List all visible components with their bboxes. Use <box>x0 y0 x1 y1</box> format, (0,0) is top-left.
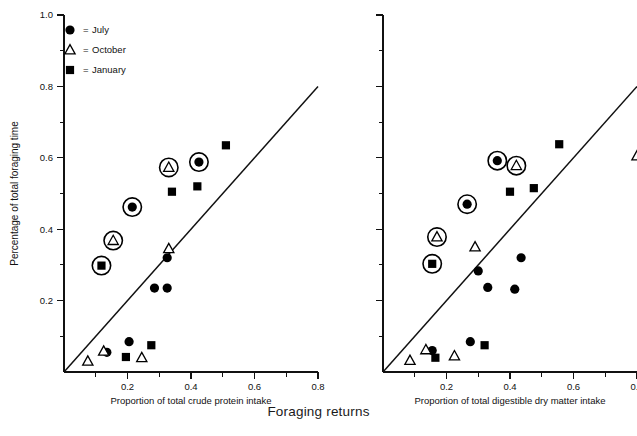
data-point <box>483 283 492 292</box>
reference-line-1to1 <box>64 86 318 372</box>
data-point <box>510 285 519 294</box>
legend: =July=October=January <box>65 24 126 75</box>
data-point <box>168 188 176 196</box>
data-point-circle <box>483 283 492 292</box>
data-point-triangle <box>108 235 118 244</box>
data-point-highlighted <box>488 151 506 169</box>
data-point-circle <box>124 337 133 346</box>
data-point-triangle <box>83 356 93 365</box>
data-point <box>530 184 538 192</box>
data-point-circle <box>517 253 526 262</box>
legend-item-january: =January <box>66 64 126 75</box>
legend-label: October <box>92 44 126 55</box>
y-tick-label: 0.8 <box>40 81 53 92</box>
data-point-triangle <box>632 151 637 160</box>
data-point <box>163 284 172 293</box>
data-point <box>632 151 637 160</box>
y-tick-label: 0.6 <box>40 152 53 163</box>
data-point-circle <box>493 156 502 165</box>
data-point-circle <box>163 284 172 293</box>
reference-line-1to1 <box>383 86 637 372</box>
data-point-highlighted <box>423 255 441 273</box>
y-tick-label: 1.0 <box>40 9 53 20</box>
data-point <box>222 141 230 149</box>
data-point-square <box>431 354 439 362</box>
data-point <box>122 353 130 361</box>
data-point <box>431 354 439 362</box>
data-point-square <box>428 260 436 268</box>
scatter-plot-right: 0.20.40.60.8Proportion of total digestib… <box>319 0 637 400</box>
legend-separator: = <box>83 24 89 35</box>
data-point-square <box>481 341 489 349</box>
y-axis-title: Percentage of total foraging time <box>9 121 20 266</box>
data-point <box>449 351 459 360</box>
data-point <box>517 253 526 262</box>
data-point-square <box>97 262 105 270</box>
data-point <box>506 188 514 196</box>
x-tick-label: 0.4 <box>503 381 516 392</box>
data-point-circle <box>128 202 137 211</box>
data-point-triangle <box>470 242 480 251</box>
data-point <box>163 253 172 262</box>
data-point-highlighted <box>92 256 110 274</box>
foraging-returns-figure: 0.20.40.60.81.00.20.40.60.8Proportion of… <box>0 0 637 436</box>
legend-label: January <box>92 64 126 75</box>
data-point-highlighted <box>123 198 141 216</box>
data-point-circle <box>194 157 203 166</box>
x-tick-label: 0.4 <box>184 381 197 392</box>
data-point-square <box>66 66 74 74</box>
data-point-square <box>193 182 201 190</box>
data-point-triangle <box>432 232 442 241</box>
series-january <box>92 141 230 361</box>
data-point-highlighted <box>160 158 178 176</box>
x-tick-label: 0.6 <box>567 381 580 392</box>
data-point-triangle <box>449 351 459 360</box>
data-point-square <box>506 188 514 196</box>
data-point-circle <box>163 253 172 262</box>
data-point <box>164 243 174 252</box>
data-point-triangle <box>511 160 521 169</box>
data-point-circle <box>466 337 475 346</box>
data-point-triangle <box>65 45 75 54</box>
data-point-highlighted <box>428 228 446 246</box>
x-tick-label: 0.6 <box>248 381 261 392</box>
shared-axis-title: Foraging returns <box>0 404 637 419</box>
data-point-circle <box>474 266 483 275</box>
data-point-circle <box>65 25 74 34</box>
legend-item-july: =July <box>65 24 109 35</box>
series-january <box>423 140 563 362</box>
chart-panel-crude-protein: 0.20.40.60.81.00.20.40.60.8Proportion of… <box>0 0 318 400</box>
data-point <box>474 266 483 275</box>
data-point-circle <box>510 285 519 294</box>
data-point <box>466 337 475 346</box>
data-point-square <box>122 353 130 361</box>
data-point-square <box>530 184 538 192</box>
legend-label: July <box>92 24 109 35</box>
x-tick-label: 0.2 <box>440 381 453 392</box>
data-point <box>150 284 159 293</box>
data-point-circle <box>463 200 472 209</box>
legend-separator: = <box>83 44 89 55</box>
data-point <box>470 242 480 251</box>
legend-item-october: =October <box>65 44 126 55</box>
data-point-triangle <box>137 352 147 361</box>
data-point-square <box>168 188 176 196</box>
data-point-triangle <box>164 162 174 171</box>
data-point-circle <box>150 284 159 293</box>
data-point-triangle <box>164 243 174 252</box>
data-point-highlighted <box>104 231 122 249</box>
data-point <box>555 140 563 148</box>
data-point-highlighted <box>190 153 208 171</box>
data-point-highlighted <box>507 156 525 174</box>
data-point <box>147 341 155 349</box>
scatter-plot-left: 0.20.40.60.81.00.20.40.60.8Proportion of… <box>0 0 318 400</box>
data-point-square <box>222 141 230 149</box>
x-tick-label: 0.2 <box>121 381 134 392</box>
y-tick-label: 0.2 <box>40 295 53 306</box>
data-point-square <box>147 341 155 349</box>
data-point <box>481 341 489 349</box>
series-july <box>428 151 526 355</box>
data-point <box>137 352 147 361</box>
data-point-square <box>555 140 563 148</box>
data-point <box>193 182 201 190</box>
